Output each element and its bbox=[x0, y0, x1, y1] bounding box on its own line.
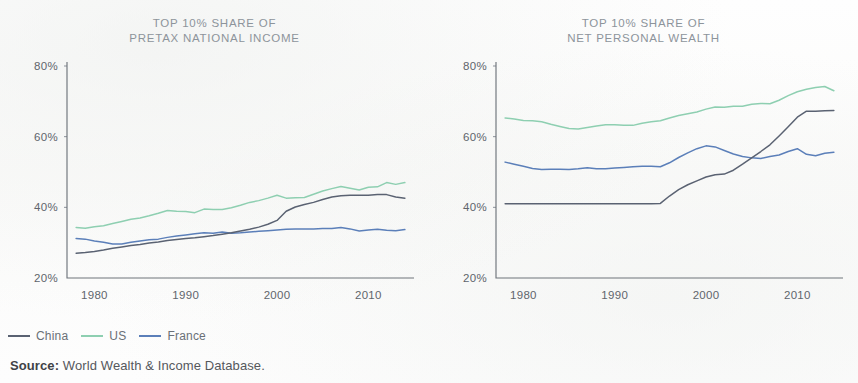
series-line-us bbox=[76, 183, 405, 229]
chart-panel-net-personal-wealth: TOP 10% SHARE OFNET PERSONAL WEALTH 20%4… bbox=[429, 0, 858, 310]
y-axis-tick-label: 60% bbox=[34, 131, 58, 143]
y-axis-tick-label: 80% bbox=[34, 60, 58, 72]
figure-container: TOP 10% SHARE OFPRETAX NATIONAL INCOME 2… bbox=[0, 0, 858, 383]
x-axis-tick-label: 1980 bbox=[510, 289, 537, 301]
y-axis-tick-label: 40% bbox=[463, 201, 487, 213]
y-axis-tick-label: 20% bbox=[34, 272, 58, 284]
series-line-france bbox=[505, 146, 834, 170]
legend-label: France bbox=[167, 329, 206, 343]
legend: ChinaUSFrance bbox=[8, 326, 206, 346]
source-label: Source: bbox=[10, 358, 59, 373]
x-axis-tick-label: 2010 bbox=[355, 289, 382, 301]
y-axis-tick-label: 40% bbox=[34, 201, 58, 213]
x-axis-tick-label: 1990 bbox=[601, 289, 628, 301]
legend-swatch-icon-china bbox=[8, 335, 30, 337]
legend-item-us[interactable]: US bbox=[81, 329, 126, 343]
legend-label: US bbox=[109, 329, 126, 343]
y-axis-tick-label: 60% bbox=[463, 131, 487, 143]
source-note: Source: World Wealth & Income Database. bbox=[10, 358, 265, 373]
x-axis-tick-label: 2000 bbox=[264, 289, 291, 301]
y-axis-tick-label: 20% bbox=[463, 272, 487, 284]
legend-item-china[interactable]: China bbox=[8, 329, 68, 343]
x-axis-tick-label: 1990 bbox=[172, 289, 199, 301]
series-line-us bbox=[505, 86, 834, 128]
legend-label: China bbox=[36, 329, 68, 343]
series-line-china bbox=[76, 195, 405, 254]
plot-area-right: 20%40%60%80%1980199020002010 bbox=[429, 0, 858, 310]
y-axis-tick-label: 80% bbox=[463, 60, 487, 72]
axis-lines bbox=[67, 62, 414, 278]
charts-row: TOP 10% SHARE OFPRETAX NATIONAL INCOME 2… bbox=[0, 0, 858, 310]
legend-swatch-icon-us bbox=[81, 335, 103, 337]
chart-panel-pretax-national-income: TOP 10% SHARE OFPRETAX NATIONAL INCOME 2… bbox=[0, 0, 429, 310]
x-axis-tick-label: 2010 bbox=[784, 289, 811, 301]
series-line-france bbox=[76, 227, 405, 244]
x-axis-tick-label: 1980 bbox=[81, 289, 108, 301]
legend-item-france[interactable]: France bbox=[139, 329, 206, 343]
source-text: World Wealth & Income Database. bbox=[59, 358, 265, 373]
legend-swatch-icon-france bbox=[139, 335, 161, 337]
plot-area-left: 20%40%60%80%1980199020002010 bbox=[0, 0, 429, 310]
x-axis-tick-label: 2000 bbox=[693, 289, 720, 301]
